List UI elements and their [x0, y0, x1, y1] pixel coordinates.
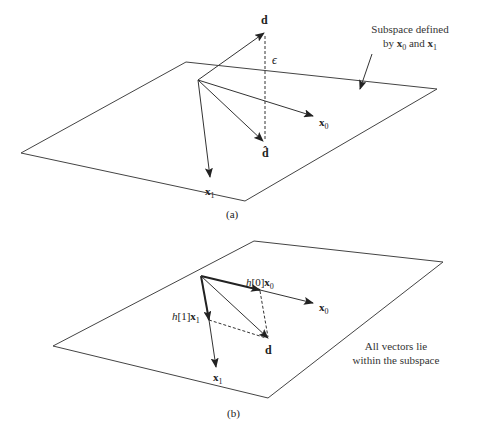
annotation-b-line1: All vectors lie — [340, 339, 452, 353]
x0-subscript: 0 — [325, 122, 329, 131]
vector-d-hat-a — [198, 80, 263, 141]
h0-index: [0] — [252, 276, 265, 288]
caption-a: (a) — [226, 209, 238, 220]
label-h0x0: h[0]x0 — [246, 277, 274, 291]
panel-b — [53, 241, 443, 398]
annotation-line2: by x0 and x1 — [355, 36, 465, 55]
label-x1-b: x1 — [213, 372, 223, 386]
x1-subscript-b: 1 — [219, 377, 223, 386]
label-h1x1: h[1]x1 — [172, 311, 200, 325]
annotation-arrow-a — [360, 54, 372, 89]
x0-subscript-b: 0 — [325, 307, 329, 316]
annotation-subspace-defined: Subspace defined by x0 and x1 — [355, 22, 465, 55]
h1-index: [1] — [178, 310, 191, 322]
label-x1-a: x1 — [205, 186, 215, 200]
h0-sub: 0 — [270, 282, 274, 291]
vector-x1-a — [198, 80, 210, 177]
annotation-mid: and — [406, 37, 427, 49]
label-x0-a: x0 — [319, 117, 329, 131]
vector-d-a — [198, 33, 264, 80]
annotation-all-vectors: All vectors lie within the subspace — [340, 339, 452, 367]
label-d-a: d — [261, 14, 268, 26]
annotation-line1: Subspace defined — [355, 22, 465, 36]
subspace-plane-a — [21, 62, 437, 201]
panel-a — [21, 33, 437, 201]
h1-sub: 1 — [196, 316, 200, 325]
label-d-b: d — [265, 344, 272, 356]
annotation-b-line2: within the subspace — [340, 353, 452, 367]
caption-b: (b) — [227, 408, 240, 419]
vector-x0-a — [198, 80, 313, 116]
annotation-x1-sub: 1 — [433, 43, 437, 52]
projection-dashed-x1 — [209, 320, 266, 338]
label-x0-b: x0 — [319, 302, 329, 316]
annotation-prefix: by — [383, 37, 397, 49]
label-epsilon: ϵ — [272, 54, 277, 66]
vector-x1-b — [209, 320, 216, 367]
x1-subscript: 1 — [211, 191, 215, 200]
projection-dashed-x0 — [260, 291, 268, 337]
vector-x0-b — [260, 290, 313, 303]
label-d-hat-a: d̂ — [262, 147, 269, 159]
